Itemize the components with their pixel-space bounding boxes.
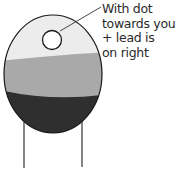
annotation-line-4: on right [102,46,175,61]
annotation-line-3: + lead is [102,31,175,46]
polarity-annotation: With dot towards you + lead is on right [102,2,175,60]
annotation-line-1: With dot [102,2,175,17]
polarity-dot [43,31,62,50]
annotation-line-2: towards you [102,17,175,32]
capacitor-body [0,0,110,140]
